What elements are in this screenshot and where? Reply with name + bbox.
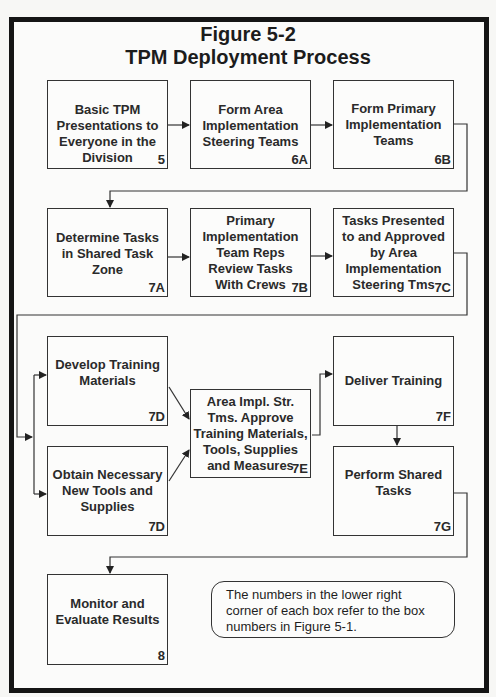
process-box-6b: Form PrimaryImplementationTeams 6B [333,80,454,169]
box-number: 7B [291,281,308,295]
box-label: Deliver Training [334,373,453,389]
box-number: 7E [292,462,308,476]
box-number: 5 [158,153,165,167]
box-label: Determine Tasksin Shared TaskZone [48,230,167,278]
box-label: Basic TPMPresentations toEveryone in the… [48,102,167,166]
footnote-text: The numbers in the lower rightcorner of … [226,587,425,635]
box-number: 7A [148,281,165,295]
box-number: 7D [148,520,165,534]
footnote-callout: The numbers in the lower rightcorner of … [211,581,455,638]
process-box-5: Basic TPMPresentations toEveryone in the… [47,80,168,169]
process-box-7d-obtain: Obtain NecessaryNew Tools andSupplies 7D [47,446,168,536]
process-box-8: Monitor andEvaluate Results 8 [47,574,168,665]
box-label: Form PrimaryImplementationTeams [334,101,453,149]
process-box-6a: Form AreaImplementationSteering Teams 6A [190,80,311,169]
box-label: Develop TrainingMaterials [48,357,167,389]
box-number: 7F [436,410,451,424]
box-number: 7D [148,410,165,424]
box-number: 6B [434,153,451,167]
process-box-7c: Tasks Presentedto and Approvedby AreaImp… [333,208,454,297]
process-box-7f: Deliver Training 7F [333,336,454,426]
process-box-7e: Area Impl. Str.Tms. ApproveTraining Mate… [190,389,311,478]
box-number: 7G [434,520,451,534]
process-box-7g: Perform SharedTasks 7G [333,446,454,536]
box-number: 6A [291,153,308,167]
box-number: 7C [434,281,451,295]
box-label: Form AreaImplementationSteering Teams [191,102,310,150]
box-label: Monitor andEvaluate Results [48,596,167,628]
process-box-7d-develop: Develop TrainingMaterials 7D [47,336,168,426]
box-number: 8 [158,649,165,663]
process-box-7b: PrimaryImplementationTeam RepsReview Tas… [190,208,311,297]
process-box-7a: Determine Tasksin Shared TaskZone 7A [47,208,168,297]
box-label: Obtain NecessaryNew Tools andSupplies [48,467,167,515]
box-label: Perform SharedTasks [334,467,453,499]
